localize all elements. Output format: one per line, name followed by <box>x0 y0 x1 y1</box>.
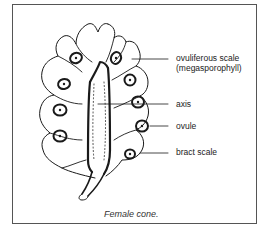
female-cone-illustration <box>0 0 266 232</box>
cone-axis <box>88 82 92 172</box>
cone-outline-left <box>40 23 108 178</box>
label-megasporophyll-line2: (megasporophyll) <box>176 63 242 73</box>
figure-caption: Female cone. <box>104 209 159 219</box>
label-ovule: ovule <box>176 121 196 131</box>
label-bract-scale: bract scale <box>176 147 217 157</box>
label-axis: axis <box>176 99 191 109</box>
label-ovuliferous-scale-line1: ovuliferous scale <box>176 53 242 63</box>
label-ovuliferous-scale: ovuliferous scale (megasporophyll) <box>176 53 242 73</box>
